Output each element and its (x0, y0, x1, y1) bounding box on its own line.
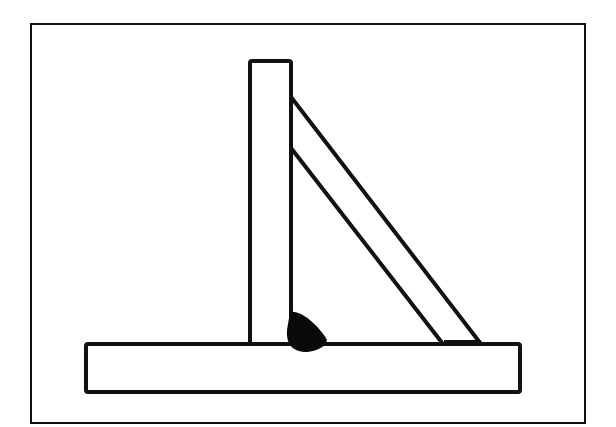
fillet-weld-bead (287, 312, 327, 352)
weld-diagram (0, 0, 616, 427)
brace-weld-top (289, 99, 293, 147)
diagonal-brace (291, 97, 481, 344)
brace-weld-bottom (444, 340, 481, 345)
vertical-member (250, 61, 291, 344)
